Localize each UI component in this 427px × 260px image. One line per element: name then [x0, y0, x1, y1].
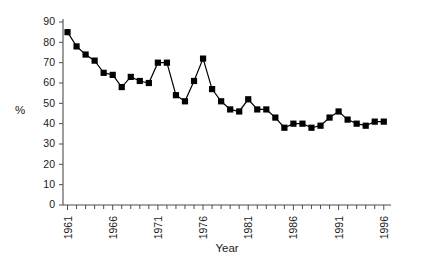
data-point — [200, 56, 206, 62]
data-point — [372, 119, 378, 125]
data-point — [146, 80, 152, 86]
chart-container: 0102030405060708090 19611966197119761981… — [0, 0, 427, 260]
data-point — [381, 119, 387, 125]
data-point — [128, 74, 134, 80]
data-point — [281, 125, 287, 131]
x-tick-label: 1961 — [62, 216, 74, 240]
data-point — [326, 114, 332, 120]
data-point — [263, 106, 269, 112]
data-point — [155, 60, 161, 66]
data-point-markers — [64, 29, 386, 131]
data-point — [209, 86, 215, 92]
x-tick-label: 1996 — [378, 216, 390, 240]
y-tick-label: 80 — [43, 36, 55, 48]
data-point — [119, 84, 125, 90]
x-tick-label: 1981 — [242, 216, 254, 240]
data-point — [137, 78, 143, 84]
y-tick-label: 20 — [43, 158, 55, 170]
y-tick-label: 10 — [43, 178, 55, 190]
data-point — [299, 121, 305, 127]
x-tick-label: 1986 — [287, 216, 299, 240]
data-point — [218, 98, 224, 104]
data-point — [254, 106, 260, 112]
data-point — [73, 43, 79, 49]
data-point — [191, 78, 197, 84]
data-point — [308, 125, 314, 131]
data-point — [82, 51, 88, 57]
data-point — [64, 29, 70, 35]
data-point — [335, 108, 341, 114]
x-tick-label: 1966 — [107, 216, 119, 240]
data-point — [101, 70, 107, 76]
data-point — [290, 121, 296, 127]
data-point — [164, 60, 170, 66]
y-tick-label: 60 — [43, 76, 55, 88]
data-point — [227, 106, 233, 112]
line-chart: 0102030405060708090 19611966197119761981… — [0, 0, 427, 260]
data-point — [245, 96, 251, 102]
x-tick-label: 1971 — [152, 216, 164, 240]
y-axis-title: % — [15, 104, 25, 116]
data-point — [182, 98, 188, 104]
x-tick-label: 1991 — [333, 216, 345, 240]
data-point — [92, 58, 98, 64]
x-axis-ticks: 19611966197119761981198619911996 — [62, 205, 390, 239]
y-tick-label: 90 — [43, 15, 55, 27]
data-point — [363, 123, 369, 129]
data-point — [354, 121, 360, 127]
y-tick-label: 50 — [43, 97, 55, 109]
x-tick-label: 1976 — [197, 216, 209, 240]
y-tick-label: 70 — [43, 56, 55, 68]
data-point — [272, 114, 278, 120]
x-axis-title: Year — [215, 242, 238, 254]
data-point — [236, 108, 242, 114]
data-point — [110, 72, 116, 78]
y-tick-label: 40 — [43, 117, 55, 129]
data-point — [345, 117, 351, 123]
data-point — [173, 92, 179, 98]
y-axis-ticks: 0102030405060708090 — [43, 15, 63, 210]
y-tick-label: 30 — [43, 137, 55, 149]
y-tick-label: 0 — [49, 198, 55, 210]
data-point — [317, 123, 323, 129]
